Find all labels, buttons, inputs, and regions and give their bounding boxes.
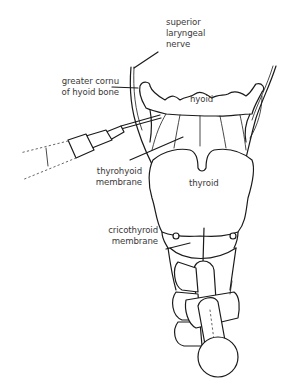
bottom-syringe — [173, 228, 240, 377]
label-line: of hyoid bone — [57, 87, 119, 98]
larynx-illustration — [0, 0, 290, 381]
thyrohyoid-membrane — [150, 110, 250, 150]
label-line: nerve — [166, 39, 205, 50]
label-hyoid: hyoid — [190, 94, 213, 105]
label-line: thyrohyoid — [92, 166, 142, 177]
thyroid-cartilage — [149, 149, 254, 236]
label-line: hyoid — [190, 94, 213, 105]
label-line: laryngeal — [166, 28, 205, 39]
label-line: membrane — [102, 236, 158, 247]
label-line: superior — [166, 17, 205, 28]
label-line: membrane — [92, 177, 142, 188]
larynx-diagram: superior laryngeal nerve greater cornu o… — [0, 0, 290, 381]
label-superior-laryngeal-nerve: superior laryngeal nerve — [166, 17, 205, 50]
cricothyroid-pointer — [166, 243, 190, 249]
label-greater-cornu: greater cornu of hyoid bone — [57, 76, 119, 98]
label-thyrohyoid-membrane: thyrohyoid membrane — [92, 166, 142, 188]
label-cricothyroid-membrane: cricothyroid membrane — [102, 225, 158, 247]
label-line: cricothyroid — [102, 225, 158, 236]
label-line: greater cornu — [57, 76, 119, 87]
label-thyroid: thyroid — [189, 178, 219, 189]
label-line: thyroid — [189, 178, 219, 189]
